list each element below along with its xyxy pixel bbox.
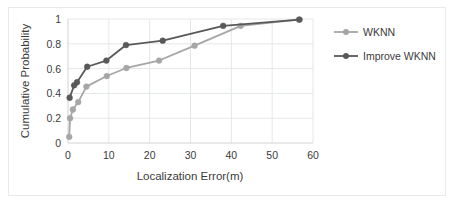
data-point-marker [83, 84, 89, 90]
data-point-marker [123, 65, 129, 71]
legend-item-wknn[interactable]: WKNN [334, 26, 395, 38]
x-axis-tick-labels: 0102030405060 [65, 149, 319, 161]
legend-marker-icon [343, 53, 349, 59]
legend-marker-icon [343, 29, 349, 35]
data-point-marker [74, 79, 80, 85]
x-tick-label: 60 [307, 149, 319, 161]
data-point-marker [75, 99, 81, 105]
y-tick-label: 0.4 [46, 87, 61, 99]
y-tick-label: 0.2 [46, 112, 61, 124]
legend-item-improve-wknn[interactable]: Improve WKNN [334, 50, 436, 62]
data-point-marker [67, 95, 73, 101]
legend-item-label: Improve WKNN [363, 50, 436, 62]
chart-figure: 00.20.40.60.81 0102030405060 Localizatio… [0, 0, 455, 210]
y-axis-tick-labels: 00.20.40.60.81 [46, 13, 61, 149]
x-axis-title: Localization Error(m) [137, 170, 244, 182]
cdf-line-chart: 00.20.40.60.81 0102030405060 Localizatio… [0, 0, 455, 210]
data-point-marker [66, 134, 72, 140]
data-point-marker [70, 107, 76, 113]
x-tick-label: 10 [103, 149, 115, 161]
y-tick-label: 1 [55, 13, 61, 25]
y-axis-title: Cumulative Probability [19, 24, 31, 139]
legend: WKNNImprove WKNN [334, 26, 436, 62]
data-point-marker [104, 73, 110, 79]
data-point-marker [297, 17, 303, 23]
x-tick-label: 50 [266, 149, 278, 161]
x-tick-label: 30 [185, 149, 197, 161]
y-tick-label: 0.6 [46, 63, 61, 75]
x-tick-label: 0 [65, 149, 71, 161]
data-point-marker [160, 38, 166, 44]
data-point-marker [123, 42, 129, 48]
data-point-marker [156, 58, 162, 64]
legend-item-label: WKNN [363, 26, 395, 38]
data-point-marker [84, 64, 90, 70]
y-tick-label: 0.8 [46, 38, 61, 50]
data-point-marker [67, 115, 73, 121]
data-point-marker [103, 58, 109, 64]
x-tick-label: 40 [225, 149, 237, 161]
data-point-marker [192, 43, 198, 49]
data-point-marker [220, 23, 226, 29]
y-tick-label: 0 [55, 137, 61, 149]
x-tick-label: 20 [144, 149, 156, 161]
